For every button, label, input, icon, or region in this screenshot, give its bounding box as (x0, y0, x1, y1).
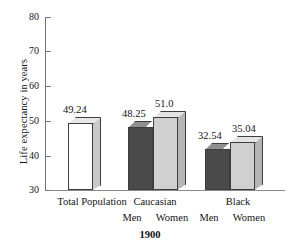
bar-black-women-side (254, 136, 263, 190)
bar-chart: Life expectancy in years 80 70 60 50 40 … (0, 0, 290, 248)
y-tick-label-50: 50 (5, 115, 39, 126)
y-tick-label-80: 80 (5, 11, 39, 22)
series-label-black-men: Men (189, 212, 229, 223)
y-tick-80 (45, 17, 51, 18)
x-axis-baseline (45, 190, 285, 191)
category-label-caucasian: Caucasian (110, 196, 200, 207)
bar-black-men-face (205, 149, 230, 190)
series-label-caucasian-men: Men (112, 212, 152, 223)
value-label-caucasian-men: 48.25 (122, 108, 146, 119)
y-tick-50 (45, 121, 51, 122)
y-tick-label-60: 60 (5, 80, 39, 91)
bar-caucasian-women-side (177, 111, 186, 190)
y-tick-60 (45, 86, 51, 87)
value-label-black-women: 35.04 (232, 123, 256, 134)
value-label-black-men: 32.54 (198, 130, 222, 141)
bar-total-population-side (92, 117, 101, 190)
value-label-caucasian-women: 51.0 (155, 98, 173, 109)
y-axis-line (45, 17, 46, 191)
x-axis-title: 1900 (110, 229, 190, 240)
value-label-total-population: 49.24 (63, 104, 87, 115)
bar-caucasian-men-face (128, 127, 153, 190)
bar-total-population-face (68, 123, 93, 190)
y-tick-label-70: 70 (5, 45, 39, 56)
bar-caucasian-women-face (153, 117, 178, 190)
bar-black-women-face (230, 142, 255, 190)
y-tick-40 (45, 156, 51, 157)
series-label-black-women: Women (225, 212, 273, 223)
y-tick-70 (45, 51, 51, 52)
y-tick-30 (45, 190, 51, 191)
y-tick-label-40: 40 (5, 150, 39, 161)
category-label-black: Black (198, 196, 278, 207)
y-tick-label-30: 30 (5, 184, 39, 195)
